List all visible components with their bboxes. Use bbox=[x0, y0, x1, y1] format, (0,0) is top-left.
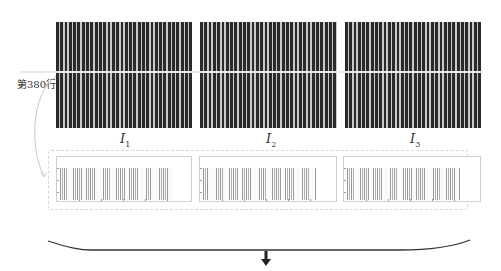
annotation-overlay bbox=[0, 0, 501, 271]
brace bbox=[48, 240, 470, 250]
down-arrow-icon bbox=[261, 251, 271, 266]
curved-pointer-arrow bbox=[35, 76, 56, 176]
